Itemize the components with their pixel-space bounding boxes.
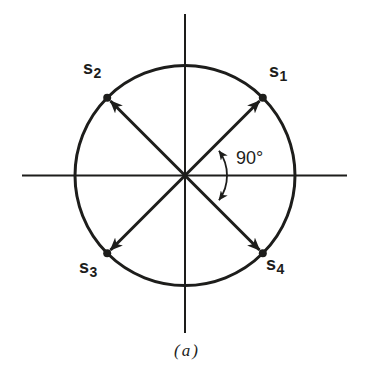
signal-point-s2 (103, 94, 111, 102)
signal-point-s3 (103, 249, 111, 257)
label-s2: s2 (83, 58, 102, 81)
figure-caption: (a) (174, 341, 200, 360)
constellation-diagram: s1 s2 s3 s4 90° (a) (0, 0, 366, 381)
angle-label: 90° (236, 148, 263, 168)
label-s1: s1 (269, 61, 288, 84)
figure-canvas: s1 s2 s3 s4 90° (a) (0, 0, 366, 381)
label-s3: s3 (79, 257, 98, 280)
label-s4: s4 (266, 254, 285, 277)
signal-point-s1 (259, 94, 267, 102)
